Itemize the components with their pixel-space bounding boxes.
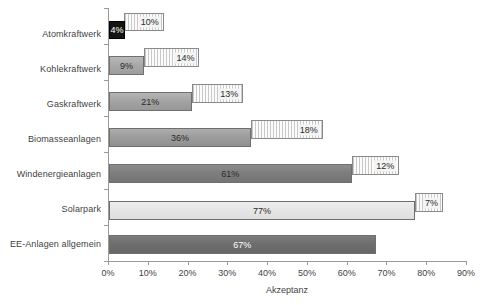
x-tick <box>227 261 228 265</box>
category-label-biomasseanlagen: Biomasseanlagen <box>0 134 101 144</box>
bar-value-secondary-solarpark: 7% <box>423 197 440 208</box>
category-label-atomkraftwerk: Atomkraftwerk <box>0 29 101 39</box>
category-label-ee-anlagen-allgemein: EE-Anlagen allgemein <box>0 239 101 249</box>
x-tick <box>386 261 387 265</box>
category-label-kohlekraftwerk: Kohlekraftwerk <box>0 64 101 74</box>
category-label-solarpark: Solarpark <box>0 204 101 214</box>
bar-value-secondary-kohlekraftwerk: 14% <box>174 52 196 63</box>
x-axis-title: Akzeptanz <box>108 285 466 295</box>
bar-segment-secondary-kohlekraftwerk: 14% <box>144 48 200 67</box>
bar-segment-primary-biomasseanlagen: 36% <box>109 128 251 147</box>
y-tick <box>104 116 108 117</box>
bar-segment-primary-ee-anlagen-allgemein: 67% <box>109 235 376 254</box>
acceptance-bar-chart: Atomkraftwerk Kohlekraftwerk Gaskraftwer… <box>0 0 487 305</box>
x-tick <box>267 261 268 265</box>
bar-segment-primary-windenergieanlagen: 61% <box>109 164 352 183</box>
plot-area: 10% 4% 14% 9% 13% 21% <box>108 8 466 261</box>
bar-value-secondary-gaskraftwerk: 13% <box>218 88 240 99</box>
y-tick <box>104 189 108 190</box>
x-tick-label-0: 0% <box>88 268 128 278</box>
y-tick <box>104 225 108 226</box>
y-tick <box>104 44 108 45</box>
bar-value-secondary-biomasseanlagen: 18% <box>298 124 320 135</box>
x-tick <box>307 261 308 265</box>
bar-value-primary-windenergieanlagen: 61% <box>110 169 351 178</box>
y-tick <box>104 8 108 9</box>
y-tick <box>104 152 108 153</box>
x-tick-label-20: 20% <box>168 268 208 278</box>
x-tick <box>148 261 149 265</box>
bar-segment-primary-solarpark: 77% <box>109 201 415 220</box>
x-tick <box>466 261 467 265</box>
y-tick <box>104 80 108 81</box>
bar-value-primary-biomasseanlagen: 36% <box>110 133 250 142</box>
x-tick <box>426 261 427 265</box>
bar-segment-primary-gaskraftwerk: 21% <box>109 92 192 111</box>
bar-value-secondary-atomkraftwerk: 10% <box>139 17 161 28</box>
x-tick-label-80: 80% <box>406 268 446 278</box>
x-tick-label-70: 70% <box>366 268 406 278</box>
x-tick-label-90: 90% <box>446 268 486 278</box>
x-tick <box>108 261 109 265</box>
x-tick-label-10: 10% <box>128 268 168 278</box>
bar-value-primary-solarpark: 77% <box>110 206 414 215</box>
x-axis-line <box>108 261 466 262</box>
bar-segment-primary-kohlekraftwerk: 9% <box>109 56 144 75</box>
x-tick-label-40: 40% <box>247 268 287 278</box>
category-label-gaskraftwerk: Gaskraftwerk <box>0 99 101 109</box>
bar-value-primary-ee-anlagen-allgemein: 67% <box>110 240 375 249</box>
bar-segment-secondary-atomkraftwerk: 10% <box>124 13 164 31</box>
x-tick-label-50: 50% <box>287 268 327 278</box>
bar-segment-secondary-gaskraftwerk: 13% <box>192 84 244 103</box>
x-tick-label-60: 60% <box>327 268 367 278</box>
bar-segment-secondary-biomasseanlagen: 18% <box>251 120 323 139</box>
category-label-windenergieanlagen: Windenergieanlagen <box>0 169 101 179</box>
bar-value-secondary-windenergieanlagen: 12% <box>374 160 396 171</box>
x-tick-label-30: 30% <box>207 268 247 278</box>
x-tick <box>188 261 189 265</box>
bar-segment-secondary-windenergieanlagen: 12% <box>352 156 400 175</box>
bar-value-primary-kohlekraftwerk: 9% <box>110 61 143 70</box>
bar-value-primary-atomkraftwerk: 4% <box>110 26 124 35</box>
bar-segment-secondary-solarpark: 7% <box>415 193 443 212</box>
x-tick <box>347 261 348 265</box>
bar-segment-primary-atomkraftwerk: 4% <box>109 21 125 39</box>
bar-value-primary-gaskraftwerk: 21% <box>110 97 191 106</box>
